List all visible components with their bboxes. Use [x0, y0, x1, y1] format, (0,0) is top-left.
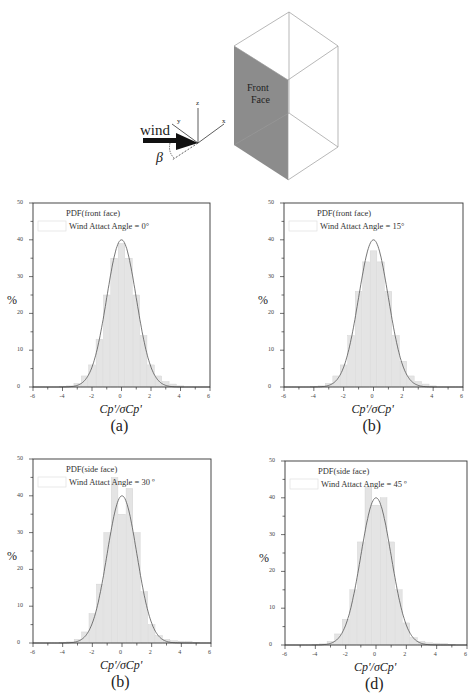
y-tick-label: 10 [269, 604, 275, 610]
x-tick-label: 4 [434, 651, 437, 657]
x-tick-label: -6 [282, 651, 287, 657]
x-tick-label: 6 [464, 651, 467, 657]
y-tick-label: 50 [269, 457, 275, 463]
pdf-chart-d: -6-4-2024601020304050PDF(side face)Wind … [0, 0, 470, 700]
y-tick-label: 30 [269, 531, 275, 537]
x-tick-label: 0 [373, 651, 376, 657]
x-tick-label: 2 [403, 651, 406, 657]
x-tick-label: -2 [343, 651, 348, 657]
subfigure-caption: (d) [365, 675, 384, 693]
legend-entry: Wind Attact Angle = 45 º [321, 479, 407, 489]
y-axis-label: % [259, 551, 269, 566]
y-tick-label: 0 [269, 641, 272, 647]
legend-title: PDF(side face) [318, 466, 369, 476]
y-tick-label: 40 [269, 494, 275, 500]
x-axis-label: Cp'/σCp' [354, 660, 396, 675]
plot-area [0, 0, 470, 700]
x-tick-label: -4 [312, 651, 317, 657]
y-tick-label: 20 [269, 567, 275, 573]
